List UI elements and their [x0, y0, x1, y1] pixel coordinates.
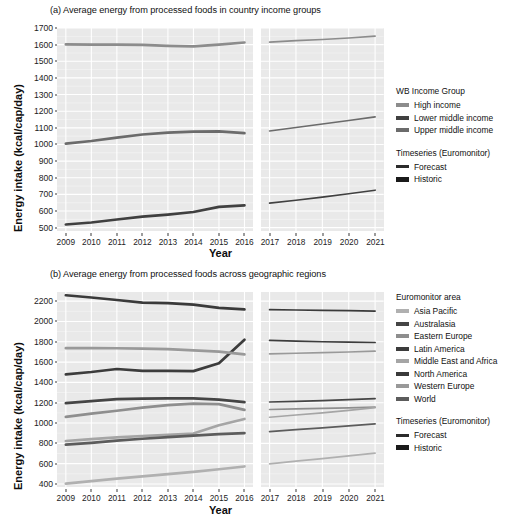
x-axis-tick-label: 2018: [287, 237, 305, 247]
legend-color-swatch-icon: [396, 384, 409, 388]
y-axis-tick-label: 1500: [34, 56, 53, 66]
y-axis-tick-label: 1600: [34, 357, 53, 367]
x-axis-tick-mark: [296, 489, 297, 492]
legend-linestyle-swatch-icon: [396, 177, 409, 182]
series-line: [66, 131, 245, 143]
chart-b-forecast-facet: [261, 292, 384, 487]
chart-b-historic-facet: [57, 292, 253, 487]
legend-item-label: Australasia: [414, 320, 455, 328]
y-axis-tick-label: 1400: [34, 377, 53, 387]
legend-color-swatch-icon: [396, 334, 409, 338]
x-axis-tick-label: 2013: [159, 493, 177, 503]
x-axis-tick-mark: [167, 489, 168, 492]
legend-item[interactable]: Upper middle income: [396, 124, 493, 137]
y-axis-tick-label: 1400: [34, 73, 53, 83]
legend-b-spacer: [396, 405, 497, 416]
x-axis-tick-mark: [65, 233, 66, 236]
legend-item-label: North America: [414, 370, 467, 378]
legend-a-items: High incomeLower middle incomeUpper midd…: [396, 99, 493, 137]
x-axis-tick-mark: [142, 233, 143, 236]
y-axis-tick-label: 400: [39, 479, 53, 489]
x-axis-tick-mark: [322, 233, 323, 236]
legend-timeseries-item[interactable]: Forecast: [396, 429, 497, 442]
x-axis-tick-label: 2017: [261, 493, 279, 503]
chart-a-x-axis-title: Year: [57, 247, 384, 259]
y-axis-tick-label: 600: [39, 206, 53, 216]
legend-item[interactable]: North America: [396, 368, 497, 381]
x-axis-tick-mark: [375, 233, 376, 236]
x-axis-tick-mark: [116, 233, 117, 236]
chart-a-title: (a) Average energy from processed foods …: [50, 5, 390, 15]
chart-b-title: (b) Average energy from processed foods …: [50, 269, 390, 279]
facet-canvas: [261, 292, 384, 487]
x-axis-tick-label: 2011: [108, 493, 126, 503]
legend-timeseries-label: Historic: [414, 175, 442, 183]
legend-item[interactable]: World: [396, 393, 497, 406]
x-axis-tick-mark: [269, 489, 270, 492]
x-axis-tick-label: 2019: [313, 237, 331, 247]
x-axis-tick-mark: [91, 489, 92, 492]
y-axis-tick-label: 1700: [34, 23, 53, 33]
x-axis-tick-label: 2009: [57, 237, 75, 247]
legend-color-swatch-icon: [396, 128, 409, 132]
x-axis-tick-mark: [296, 233, 297, 236]
legend-a-timeseries-title: Timeseries (Euromonitor): [396, 148, 493, 158]
series-line: [66, 348, 245, 354]
legend-item[interactable]: Middle East and Africa: [396, 355, 497, 368]
legend-a-title: WB Income Group: [396, 86, 493, 96]
legend-linestyle-swatch-icon: [396, 165, 409, 168]
legend-item[interactable]: Asia Pacific: [396, 305, 497, 318]
facet-canvas: [57, 28, 253, 231]
x-axis-tick-label: 2017: [261, 237, 279, 247]
y-axis-tick-label: 800: [39, 438, 53, 448]
legend-color-swatch-icon: [396, 322, 409, 326]
legend-item[interactable]: Eastern Europe: [396, 330, 497, 343]
chart-a-plot-area: [57, 28, 384, 231]
x-axis-tick-mark: [142, 489, 143, 492]
legend-color-swatch-icon: [396, 347, 409, 351]
legend-item-label: Eastern Europe: [414, 332, 472, 340]
chart-b-plot-area: [57, 292, 384, 487]
series-line: [66, 295, 245, 309]
y-axis-tick-label: 600: [39, 459, 53, 469]
y-axis-tick-label: 1200: [34, 398, 53, 408]
x-axis-tick-label: 2018: [287, 493, 305, 503]
legend-item[interactable]: Lower middle income: [396, 112, 493, 125]
legend-timeseries-item[interactable]: Forecast: [396, 161, 493, 174]
chart-b-legend: Euromonitor area Asia PacificAustralasia…: [396, 292, 497, 454]
x-axis-tick-label: 2010: [82, 237, 100, 247]
legend-item-label: Latin America: [414, 345, 465, 353]
legend-item[interactable]: Australasia: [396, 318, 497, 331]
chart-a-legend: WB Income Group High incomeLower middle …: [396, 86, 493, 186]
legend-timeseries-label: Historic: [414, 444, 442, 452]
y-axis-tick-label: 900: [39, 156, 53, 166]
x-axis-tick-mark: [244, 489, 245, 492]
legend-linestyle-swatch-icon: [396, 434, 409, 437]
legend-timeseries-item[interactable]: Historic: [396, 442, 497, 455]
legend-item-label: High income: [414, 101, 461, 109]
x-axis-tick-mark: [65, 489, 66, 492]
legend-item[interactable]: High income: [396, 99, 493, 112]
legend-item-label: Lower middle income: [414, 114, 493, 122]
legend-item[interactable]: Western Europe: [396, 380, 497, 393]
chart-a-forecast-facet: [261, 28, 384, 231]
legend-timeseries-item[interactable]: Historic: [396, 173, 493, 186]
series-line: [270, 310, 376, 311]
x-axis-tick-mark: [193, 233, 194, 236]
y-axis-tick-label: 1100: [35, 123, 53, 133]
legend-item[interactable]: Latin America: [396, 343, 497, 356]
chart-b-y-axis-labels: 4006008001000120014001600180020002200: [15, 292, 57, 487]
legend-item-label: World: [414, 395, 436, 403]
chart-b-x-axis-title: Year: [57, 504, 384, 516]
legend-item-label: Western Europe: [414, 382, 474, 390]
x-axis-tick-label: 2016: [235, 493, 253, 503]
legend-color-swatch-icon: [396, 309, 409, 313]
legend-color-swatch-icon: [396, 359, 409, 363]
x-axis-tick-label: 2014: [184, 493, 202, 503]
x-axis-tick-label: 2012: [133, 493, 151, 503]
series-line: [66, 42, 245, 46]
y-axis-tick-label: 2000: [34, 316, 53, 326]
figure-root: (a) Average energy from processed foods …: [0, 0, 524, 531]
x-axis-tick-label: 2015: [210, 237, 228, 247]
y-axis-tick-label: 1800: [34, 337, 53, 347]
